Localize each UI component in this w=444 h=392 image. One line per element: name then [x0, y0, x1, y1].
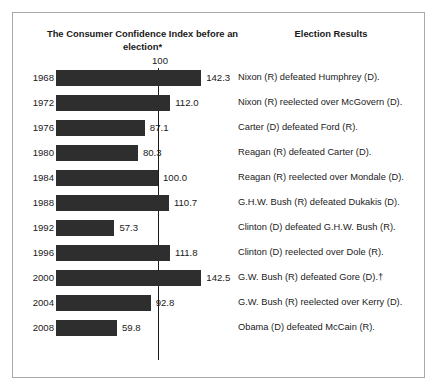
row-year-label: 1972 [15, 97, 54, 108]
axis-reference-label-100: 100 [144, 55, 176, 66]
column-heading-election-results: Election Results [251, 28, 411, 41]
row-bar [56, 120, 145, 136]
row-value-label: 80.3 [143, 147, 162, 158]
row-value-label: 59.8 [122, 322, 141, 333]
clipped-top-caption-strip: elections [0, 0, 444, 11]
row-bar [56, 170, 158, 186]
row-bar [56, 270, 201, 286]
chart-plot-area: 1968142.3Nixon (R) defeated Humphrey (D)… [13, 67, 424, 367]
row-value-label: 112.0 [175, 97, 198, 108]
row-bar [56, 195, 169, 211]
row-bar [56, 220, 114, 236]
row-value-label: 92.8 [156, 297, 175, 308]
row-year-label: 1984 [15, 172, 54, 183]
row-election-result: Nixon (R) defeated Humphrey (D). [238, 72, 424, 82]
chart-row: 199257.3Clinton (D) defeated G.H.W. Bush… [13, 217, 424, 242]
row-election-result: G.W. Bush (R) defeated Gore (D).† [238, 272, 424, 282]
row-value-label: 110.7 [174, 197, 197, 208]
row-year-label: 1988 [15, 197, 54, 208]
row-bar [56, 95, 170, 111]
row-election-result: Clinton (D) defeated G.H.W. Bush (R). [238, 222, 424, 232]
chart-row: 1968142.3Nixon (R) defeated Humphrey (D)… [13, 67, 424, 92]
column-heading-consumer-confidence: The Consumer Confidence Index before an … [45, 28, 240, 53]
chart-row: 1972112.0Nixon (R) reelected over McGove… [13, 92, 424, 117]
row-year-label: 1980 [15, 147, 54, 158]
row-election-result: Carter (D) defeated Ford (R). [238, 122, 424, 132]
chart-row: 1984100.0Reagan (R) reelected over Monda… [13, 167, 424, 192]
chart-row: 198080.3Reagan (R) defeated Carter (D). [13, 142, 424, 167]
chart-row: 197687.1Carter (D) defeated Ford (R). [13, 117, 424, 142]
row-bar [56, 295, 151, 311]
row-bar [56, 320, 117, 336]
row-year-label: 1996 [15, 247, 54, 258]
row-value-label: 100.0 [163, 172, 187, 183]
row-year-label: 1976 [15, 122, 54, 133]
row-value-label: 142.3 [206, 72, 230, 83]
chart-row: 200859.8Obama (D) defeated McCain (R). [13, 317, 424, 342]
row-value-label: 142.5 [206, 272, 230, 283]
row-election-result: Reagan (R) reelected over Mondale (D). [238, 172, 424, 182]
row-bar [56, 70, 201, 86]
chart-row: 1988110.7G.H.W. Bush (R) defeated Dukaki… [13, 192, 424, 217]
chart-row: 2000142.5G.W. Bush (R) defeated Gore (D)… [13, 267, 424, 292]
row-election-result: Obama (D) defeated McCain (R). [238, 322, 424, 332]
chart-row: 1996111.8Clinton (D) reelected over Dole… [13, 242, 424, 267]
row-value-label: 87.1 [150, 122, 169, 133]
row-election-result: G.H.W. Bush (R) defeated Dukakis (D). [238, 197, 424, 207]
row-year-label: 1992 [15, 222, 54, 233]
row-value-label: 111.8 [175, 247, 198, 258]
row-year-label: 2008 [15, 322, 54, 333]
clipped-caption-text: elections [112, 0, 163, 1]
row-year-label: 1968 [15, 72, 54, 83]
row-year-label: 2004 [15, 297, 54, 308]
row-year-label: 2000 [15, 272, 54, 283]
row-election-result: Reagan (R) defeated Carter (D). [238, 147, 424, 157]
row-bar [56, 245, 170, 261]
row-value-label: 57.3 [119, 222, 138, 233]
row-bar [56, 145, 138, 161]
row-election-result: G.W. Bush (R) reelected over Kerry (D). [238, 297, 424, 307]
row-election-result: Nixon (R) reelected over McGovern (D). [238, 97, 424, 107]
figure-frame: The Consumer Confidence Index before an … [12, 12, 425, 378]
chart-row: 200492.8G.W. Bush (R) reelected over Ker… [13, 292, 424, 317]
row-election-result: Clinton (D) reelected over Dole (R). [238, 247, 424, 257]
